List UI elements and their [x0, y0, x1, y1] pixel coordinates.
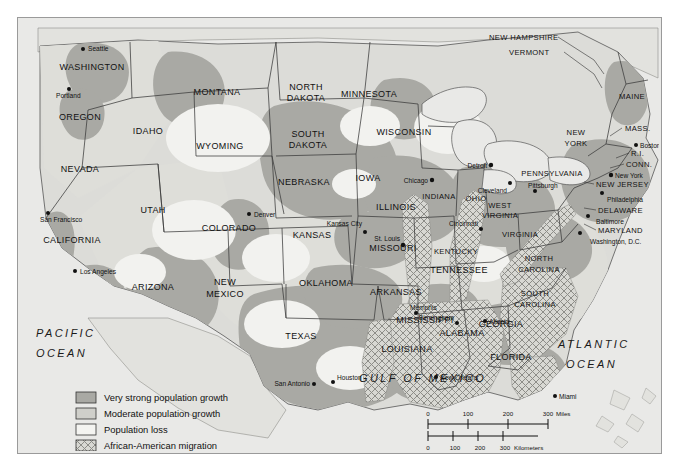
city-dot-chicago: [430, 178, 434, 182]
state-label-wisconsin: WISCONSIN: [376, 127, 431, 137]
state-label-west-virginia-l1: WEST: [488, 201, 511, 210]
city-dot-cleveland: [508, 181, 512, 185]
state-label-missouri: MISSOURI: [369, 243, 416, 253]
city-dot-memphis: [414, 311, 418, 315]
state-label-connecticut: CONN.: [626, 160, 652, 169]
state-label-wyoming: WYOMING: [196, 141, 243, 151]
city-label-new-orleans: New Orleans: [440, 374, 479, 381]
city-label-boston: Boston: [640, 142, 659, 149]
state-label-illinois: ILLINOIS: [376, 202, 416, 212]
city-label-st-louis: St. Louis: [374, 235, 400, 242]
city-label-kansas-city: Kansas City: [327, 220, 363, 228]
state-label-arizona: ARIZONA: [132, 282, 174, 292]
scale-miles-tick-200: 200: [503, 410, 514, 417]
city-label-portland: Portland: [56, 92, 81, 99]
city-label-los-angeles: Los Angeles: [80, 268, 117, 276]
state-label-north-carolina-l2: CAROLINA: [518, 265, 560, 274]
city-label-philadelphia: Philadelphia: [607, 196, 643, 204]
legend-swatch-population-loss: [76, 424, 96, 435]
city-label-atlanta: Atlanta: [489, 318, 510, 325]
city-label-chicago: Chicago: [404, 177, 429, 185]
pacific-ocean-label-line2: OCEAN: [36, 347, 87, 359]
state-label-nebraska: NEBRASKA: [278, 177, 330, 187]
scale-km-tick-0: 0: [426, 444, 430, 451]
state-label-rhode-island: R.I.: [631, 149, 644, 158]
scale-miles-unit: Miles: [556, 410, 570, 417]
state-label-arkansas: ARKANSAS: [370, 287, 422, 297]
legend-label-moderate-growth: Moderate population growth: [104, 408, 220, 419]
atlantic-ocean-label-line1: ATLANTIC: [557, 338, 630, 350]
city-dot-baltimore: [586, 214, 590, 218]
state-label-new-hampshire: NEW HAMPSHIRE: [489, 33, 559, 42]
legend-swatch-african-american-migration: [76, 440, 96, 451]
atlantic-ocean-label-line2: OCEAN: [566, 358, 617, 370]
scale-miles-tick-0: 0: [426, 410, 430, 417]
state-label-south-dakota-l1: SOUTH: [291, 129, 324, 139]
city-label-pittsburgh: Pittsburgh: [528, 182, 558, 190]
legend-label-very-strong-growth: Very strong population growth: [104, 392, 228, 403]
map-frame: PACIFIC OCEAN ATLANTIC OCEAN GULF OF MEX…: [17, 17, 662, 454]
city-label-new-york: New York: [615, 172, 644, 179]
state-label-colorado: COLORADO: [202, 223, 256, 233]
pacific-ocean-label-line1: PACIFIC: [36, 327, 95, 339]
legend-swatch-moderate-growth: [76, 408, 96, 419]
city-label-san-francisco: San Francisco: [40, 216, 82, 223]
state-label-montana: MONTANA: [194, 87, 241, 97]
state-label-new-york-l2: YORK: [565, 139, 588, 148]
city-dot-los-angeles: [73, 269, 77, 273]
state-label-kansas: KANSAS: [293, 230, 332, 240]
city-dot-washington-dc: [578, 231, 582, 235]
city-dot-portland: [67, 87, 71, 91]
state-label-south-carolina-l1: SOUTH: [521, 289, 549, 298]
city-label-miami: Miami: [559, 393, 577, 400]
state-label-kentucky: KENTUCKY: [434, 247, 478, 256]
city-label-seattle: Seattle: [88, 45, 109, 52]
scale-miles-tick-100: 100: [463, 410, 474, 417]
state-label-massachusetts: MASS.: [625, 124, 650, 133]
state-label-north-dakota-l2: DAKOTA: [287, 93, 325, 103]
city-dot-kansas-city: [363, 230, 367, 234]
scale-miles-tick-300: 300: [543, 410, 554, 417]
state-label-new-jersey: NEW JERSEY: [596, 180, 649, 189]
city-label-detroit: Detroit: [468, 162, 488, 169]
city-dot-atlanta: [483, 319, 487, 323]
state-label-louisiana: LOUISIANA: [381, 344, 432, 354]
legend-swatch-very-strong-growth: [76, 392, 96, 403]
city-dot-pittsburgh: [533, 189, 537, 193]
state-label-vermont: VERMONT: [509, 48, 549, 57]
city-dot-philadelphia: [600, 191, 604, 195]
state-label-washington: WASHINGTON: [59, 62, 124, 72]
state-label-new-mexico-l2: MEXICO: [206, 289, 244, 299]
city-dot-cincinnati: [479, 227, 483, 231]
state-label-new-york-l1: NEW: [567, 128, 586, 137]
city-dot-detroit: [489, 163, 493, 167]
state-label-virginia: VIRGINIA: [502, 230, 539, 239]
state-label-north-dakota-l1: NORTH: [289, 82, 323, 92]
city-label-houston: Houston: [337, 374, 362, 381]
state-label-utah: UTAH: [140, 205, 165, 215]
city-dot-boston: [634, 143, 638, 147]
state-label-south-dakota-l2: DAKOTA: [289, 140, 327, 150]
state-label-delaware: DELAWARE: [598, 206, 643, 215]
scale-km-tick-300: 300: [500, 444, 511, 451]
city-dot-birmingham: [455, 321, 459, 325]
city-label-cincinnati: Cincinnati: [449, 220, 478, 227]
state-label-north-carolina-l1: NORTH: [525, 254, 554, 263]
state-label-maine: MAINE: [619, 92, 645, 101]
city-dot-san-francisco: [46, 211, 50, 215]
scale-km-tick-100: 100: [450, 444, 461, 451]
city-dot-st-louis: [401, 243, 405, 247]
scale-km-unit: Kilometers: [514, 444, 543, 451]
city-label-birmingham: Birmingham: [419, 314, 455, 322]
state-label-iowa: IOWA: [355, 173, 380, 183]
state-label-oklahoma: OKLAHOMA: [299, 278, 353, 288]
state-label-ohio: OHIO: [466, 194, 487, 203]
state-label-indiana: INDIANA: [422, 192, 456, 201]
state-label-nevada: NEVADA: [61, 164, 99, 174]
state-label-south-carolina-l2: CAROLINA: [514, 300, 556, 309]
legend-label-african-american-migration: African-American migration: [104, 440, 217, 451]
city-dot-san-antonio: [312, 382, 316, 386]
city-dot-new-orleans: [434, 375, 438, 379]
city-dot-houston: [331, 380, 335, 384]
map-canvas: PACIFIC OCEAN ATLANTIC OCEAN GULF OF MEX…: [18, 18, 659, 451]
